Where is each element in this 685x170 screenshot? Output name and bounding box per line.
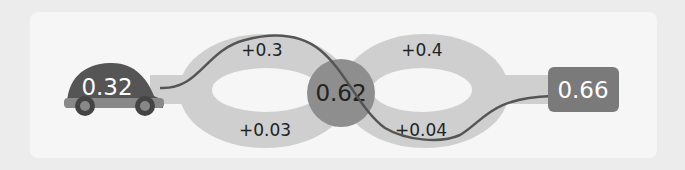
- right-loop-bottom-delta: +0.04: [395, 120, 447, 140]
- right-loop-top-delta: +0.4: [401, 40, 442, 60]
- path-diagram: +0.3 +0.03 +0.4 +0.04 0.62 0.66 0.32: [0, 0, 685, 170]
- left-loop-hole: [212, 68, 320, 112]
- start-value: 0.32: [81, 74, 132, 100]
- right-loop-hole: [372, 68, 472, 112]
- left-loop-bottom-delta: +0.03: [239, 120, 291, 140]
- center-value: 0.62: [315, 80, 366, 106]
- end-value: 0.66: [557, 77, 608, 103]
- left-loop-top-delta: +0.3: [241, 40, 282, 60]
